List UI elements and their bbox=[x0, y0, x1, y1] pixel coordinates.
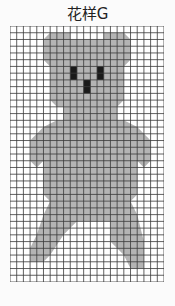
pattern-canvas bbox=[10, 26, 164, 282]
chart-title: 花样G bbox=[0, 2, 175, 23]
knitting-grid bbox=[10, 26, 164, 282]
